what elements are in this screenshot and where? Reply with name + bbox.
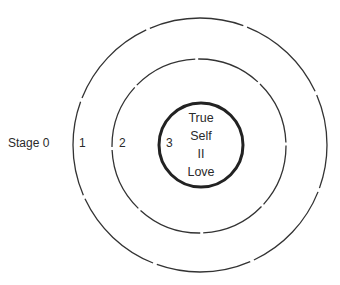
stage-2-label: 2	[119, 136, 126, 150]
stage-0-label: Stage 0	[8, 136, 49, 150]
center-line-self: Self	[171, 127, 231, 145]
center-line-true: True	[171, 109, 231, 127]
center-line-equals: II	[171, 145, 231, 163]
stage-1-label: 1	[79, 136, 86, 150]
center-text: True Self II Love	[171, 109, 231, 181]
center-line-love: Love	[171, 163, 231, 181]
